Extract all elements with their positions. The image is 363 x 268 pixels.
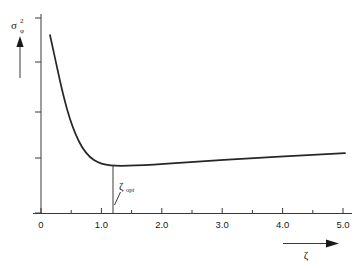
curve-path	[50, 35, 345, 166]
data-series-phase-variance	[50, 35, 345, 166]
y-axis-title-sigma: σ	[11, 19, 17, 31]
y-axis-arrow-head-icon	[16, 36, 23, 47]
x-tick-label-3: 3.0	[216, 219, 229, 230]
x-axis-title-group: ζ	[283, 240, 339, 262]
x-tick-label-4: 4.0	[276, 219, 289, 230]
zeta-opt-label: ζ	[119, 180, 124, 193]
x-axis-arrow-head-icon	[326, 240, 339, 248]
y-axis-title-superscript: 2	[20, 17, 24, 25]
zeta-opt-leader-line	[115, 192, 121, 205]
x-tick-label-0: 0	[38, 219, 43, 230]
x-tick-label-5: 5.0	[336, 219, 349, 230]
y-axis-title-group: σ 2 φ	[11, 17, 24, 78]
y-axis-title-subscript: φ	[20, 27, 24, 35]
chart-figure: σ 2 φ 0 1.0 2.0 3.0 4.0 5.0	[0, 0, 363, 268]
zeta-opt-annotation: ζ opt	[113, 166, 135, 214]
x-tick-label-1: 1.0	[95, 219, 108, 230]
x-tick-label-2: 2.0	[155, 219, 168, 230]
y-axis	[35, 14, 41, 214]
x-axis-title-zeta: ζ	[304, 249, 309, 262]
zeta-opt-label-subscript: opt	[126, 186, 135, 193]
x-axis: 0 1.0 2.0 3.0 4.0 5.0	[33, 208, 352, 230]
chart-svg: σ 2 φ 0 1.0 2.0 3.0 4.0 5.0	[0, 0, 363, 268]
